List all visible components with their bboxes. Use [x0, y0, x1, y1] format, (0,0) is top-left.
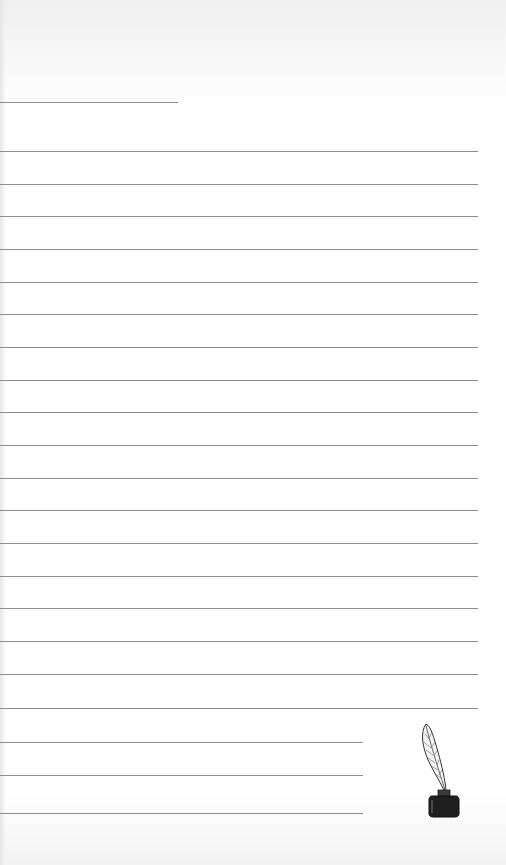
rule-line — [0, 216, 478, 217]
rule-line — [0, 412, 478, 413]
rule-line — [0, 478, 478, 479]
title-rule-line — [0, 102, 178, 103]
rule-line — [0, 510, 478, 511]
quill-and-inkwell-icon — [418, 718, 464, 818]
rule-line — [0, 576, 478, 577]
rule-line — [0, 184, 478, 185]
rule-line — [0, 813, 363, 814]
page-edge-shadow — [0, 0, 6, 865]
rule-line — [0, 249, 478, 250]
rule-line — [0, 674, 478, 675]
rule-line — [0, 151, 478, 152]
rule-line — [0, 708, 478, 709]
rule-line — [0, 347, 478, 348]
rule-line — [0, 641, 478, 642]
rule-line — [0, 380, 478, 381]
rule-line — [0, 608, 478, 609]
rule-line — [0, 314, 478, 315]
rule-line — [0, 775, 363, 776]
rule-line — [0, 742, 363, 743]
rule-line — [0, 543, 478, 544]
rule-line — [0, 445, 478, 446]
rule-line — [0, 282, 478, 283]
